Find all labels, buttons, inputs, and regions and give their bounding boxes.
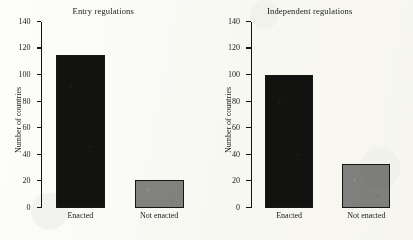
chart-title: Independent regulations bbox=[207, 6, 413, 16]
x-axis-category-label: Not enacted bbox=[347, 211, 385, 220]
y-axis-spine bbox=[251, 22, 252, 208]
y-axis-tick: 60 bbox=[246, 127, 251, 128]
y-axis-tick-label: 80 bbox=[232, 96, 240, 105]
y-axis-tick-label: 60 bbox=[232, 123, 240, 132]
bar-not-enacted: Not enacted bbox=[135, 180, 184, 208]
y-axis-tick: 80 bbox=[37, 101, 42, 102]
y-axis-tick: 40 bbox=[246, 154, 251, 155]
y-axis-tick: 0 bbox=[246, 207, 251, 208]
y-axis-tick-label: 120 bbox=[19, 43, 31, 52]
y-axis-tick: 0 bbox=[37, 207, 42, 208]
y-axis-tick-label: 100 bbox=[19, 70, 31, 79]
y-axis-tick-label: 60 bbox=[23, 123, 31, 132]
y-axis-tick: 120 bbox=[37, 47, 42, 48]
plot-area: 020406080100120140 EnactedNot enacted bbox=[41, 22, 199, 208]
y-axis-tick: 100 bbox=[246, 74, 251, 75]
y-axis-tick: 60 bbox=[37, 127, 42, 128]
y-axis-tick: 20 bbox=[37, 180, 42, 181]
y-axis-tick-label: 100 bbox=[228, 70, 240, 79]
y-axis-tick-label: 140 bbox=[19, 16, 31, 25]
y-axis-tick-label: 40 bbox=[23, 149, 31, 158]
y-axis-tick-label: 40 bbox=[232, 149, 240, 158]
y-axis-tick: 20 bbox=[246, 180, 251, 181]
bar-enacted: Enacted bbox=[56, 55, 105, 208]
y-axis-tick: 80 bbox=[246, 101, 251, 102]
y-axis-tick-label: 20 bbox=[23, 176, 31, 185]
y-axis-tick-label: 120 bbox=[228, 43, 240, 52]
y-axis-tick: 140 bbox=[246, 21, 251, 22]
y-axis-tick-label: 20 bbox=[232, 176, 240, 185]
plot-area: 020406080100120140 EnactedNot enacted bbox=[251, 22, 406, 208]
x-axis-category-label: Not enacted bbox=[140, 211, 178, 220]
x-axis-category-label: Enacted bbox=[67, 211, 93, 220]
bar-chart-figure: Entry regulations Number of countries 02… bbox=[0, 0, 413, 240]
bar-not-enacted: Not enacted bbox=[342, 164, 390, 208]
y-axis-spine bbox=[41, 22, 42, 208]
y-axis-tick: 140 bbox=[37, 21, 42, 22]
bar-enacted: Enacted bbox=[265, 75, 313, 208]
y-axis-tick-label: 80 bbox=[23, 96, 31, 105]
chart-title: Entry regulations bbox=[0, 6, 207, 16]
y-axis-tick-label: 0 bbox=[27, 202, 31, 211]
y-axis-tick-label: 0 bbox=[236, 202, 240, 211]
x-axis-category-label: Enacted bbox=[276, 211, 302, 220]
chart-panel-entry-regulations: Entry regulations Number of countries 02… bbox=[0, 0, 207, 240]
chart-panel-independent-regulations: Independent regulations Number of countr… bbox=[207, 0, 413, 240]
y-axis-tick: 40 bbox=[37, 154, 42, 155]
y-axis-tick: 100 bbox=[37, 74, 42, 75]
y-axis-tick-label: 140 bbox=[228, 16, 240, 25]
y-axis-tick: 120 bbox=[246, 47, 251, 48]
